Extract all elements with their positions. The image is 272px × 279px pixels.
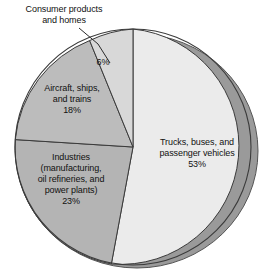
slice-label-consumer-products-and-homes: Consumer products and homes (6, 4, 122, 26)
slice-label-industries-text: Industries (manufacturing, oil refinerie… (38, 152, 105, 195)
slice-label-industries: Industries (manufacturing, oil refinerie… (14, 152, 128, 207)
slice-percent-industries: 23% (14, 196, 128, 207)
slice-label-aircraft-text: Aircraft, ships, and trains (44, 83, 99, 104)
slice-label-trucks-text: Trucks, buses, and passenger vehicles (159, 137, 234, 158)
slice-percent-aircraft-ships-trains: 18% (20, 105, 124, 116)
slice-label-aircraft-ships-trains: Aircraft, ships, and trains18% (20, 83, 124, 116)
slice-percent-trucks-buses-passenger-vehicles: 53% (136, 159, 258, 170)
slice-label-trucks-buses-passenger-vehicles: Trucks, buses, and passenger vehicles53% (136, 137, 258, 170)
pie-chart: Consumer products and homes 6% Aircraft,… (0, 0, 272, 279)
slice-percent-consumer-products-and-homes: 6% (86, 57, 120, 68)
